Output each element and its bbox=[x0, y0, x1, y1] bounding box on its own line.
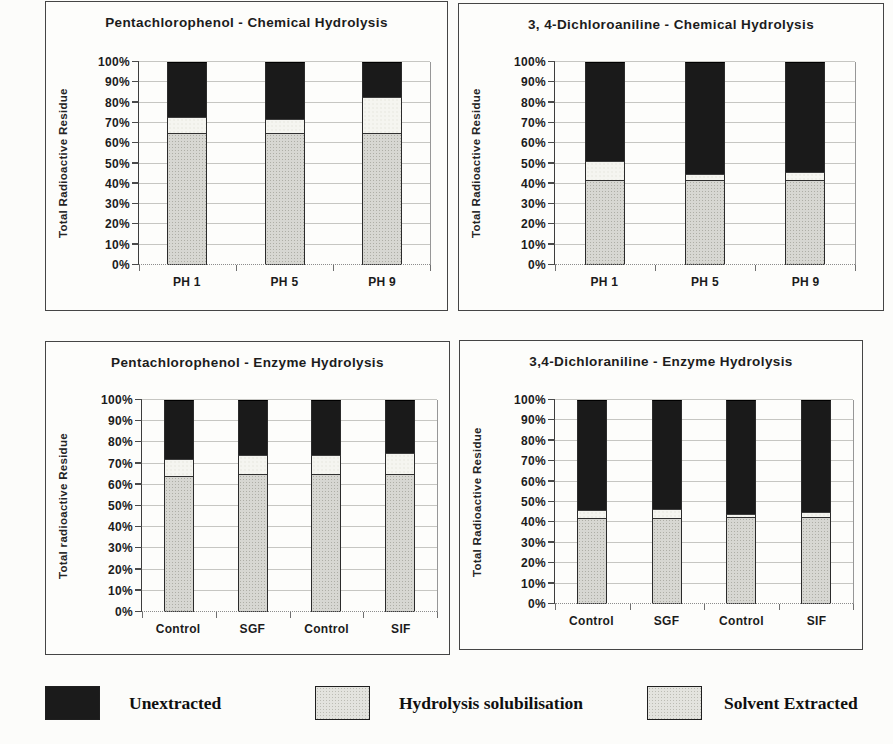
x-axis-category-label: PH 5 bbox=[691, 275, 719, 289]
y-axis-tick-label: 0% bbox=[528, 597, 546, 611]
y-axis-tick bbox=[132, 264, 139, 265]
x-axis-category-label: PH 9 bbox=[368, 275, 396, 289]
x-axis-tick bbox=[363, 612, 364, 618]
y-axis-tick bbox=[548, 61, 555, 62]
bar-segment-black bbox=[577, 400, 607, 510]
legend: Unextracted Hydrolysis solubilisation So… bbox=[0, 675, 893, 744]
x-axis-category-label: PH 5 bbox=[271, 275, 299, 289]
y-axis-tick-label: 90% bbox=[105, 75, 130, 89]
y-axis-tick bbox=[132, 182, 139, 183]
x-axis-category-label: SGF bbox=[654, 614, 680, 628]
y-axis-tick bbox=[548, 521, 555, 522]
bar-segment-white bbox=[385, 453, 415, 474]
y-axis-tick-label: 90% bbox=[521, 75, 546, 89]
y-axis-tick-label: 70% bbox=[108, 457, 133, 471]
bar-segment-black bbox=[311, 400, 341, 455]
y-axis-tick-label: 60% bbox=[108, 478, 133, 492]
y-axis-tick-labels: 0%10%20%30%40%50%60%70%80%90%100% bbox=[82, 62, 130, 265]
bar-segment-white bbox=[164, 459, 194, 476]
y-axis-tick bbox=[548, 501, 555, 502]
x-axis-tick bbox=[437, 612, 438, 618]
y-axis-tick-label: 70% bbox=[521, 116, 546, 130]
bar-segment-gray bbox=[164, 476, 194, 612]
y-axis-tick-label: 0% bbox=[112, 258, 130, 272]
y-axis-tick bbox=[135, 611, 142, 612]
bar-segment-white bbox=[726, 514, 756, 517]
y-axis-tick bbox=[132, 243, 139, 244]
y-axis-tick-label: 80% bbox=[105, 96, 130, 110]
legend-swatch-unextracted bbox=[45, 686, 100, 720]
x-axis-tick bbox=[630, 604, 631, 610]
y-axis-tick-label: 10% bbox=[521, 238, 546, 252]
chart-panel-pentachlorophenol-chemical: Pentachlorophenol - Chemical Hydrolysis … bbox=[45, 1, 448, 311]
bar-segment-black bbox=[685, 62, 725, 174]
y-axis-tick-label: 100% bbox=[101, 393, 133, 407]
x-axis-category-label: PH 1 bbox=[590, 275, 618, 289]
x-axis-tick bbox=[139, 265, 140, 271]
y-axis-tick-label: 0% bbox=[115, 605, 133, 619]
plot-area bbox=[141, 400, 438, 612]
x-axis-category-labels: ControlSGFControlSIF bbox=[554, 614, 854, 632]
bar-segment-white bbox=[265, 119, 305, 133]
y-axis-tick bbox=[135, 505, 142, 506]
bar-segment-white bbox=[311, 455, 341, 474]
x-axis-tick bbox=[430, 265, 431, 271]
stacked-bar bbox=[685, 62, 725, 265]
stacked-bar bbox=[577, 400, 607, 604]
y-axis-tick-label: 20% bbox=[105, 217, 130, 231]
y-axis-tick-label: 60% bbox=[521, 136, 546, 150]
bar-segment-white bbox=[362, 97, 402, 134]
bar-segment-gray bbox=[785, 180, 825, 265]
x-axis-category-labels: ControlSGFControlSIF bbox=[141, 622, 438, 640]
x-axis-tick bbox=[704, 604, 705, 610]
y-axis-tick-labels: 0%10%20%30%40%50%60%70%80%90%100% bbox=[85, 400, 133, 612]
stacked-bar bbox=[726, 400, 756, 604]
y-axis-tick bbox=[548, 460, 555, 461]
bar-segment-black bbox=[785, 62, 825, 172]
chart-panel-pentachlorophenol-enzyme: Pentachlorophenol - Enzyme Hydrolysis To… bbox=[45, 341, 450, 655]
x-axis-tick bbox=[216, 612, 217, 618]
y-axis-tick bbox=[135, 441, 142, 442]
stacked-bar bbox=[164, 400, 194, 612]
bar-segment-black bbox=[801, 400, 831, 512]
chart-title: 3, 4-Dichloroaniline - Chemical Hydrolys… bbox=[459, 17, 883, 32]
y-axis-tick-label: 30% bbox=[521, 536, 546, 550]
y-axis-tick bbox=[135, 420, 142, 421]
legend-item-hydrolysis-solubilisation: Hydrolysis solubilisation bbox=[315, 686, 583, 720]
y-axis-tick-label: 0% bbox=[528, 258, 546, 272]
y-axis-tick bbox=[548, 243, 555, 244]
bar-segment-gray bbox=[726, 517, 756, 604]
bar-segment-gray bbox=[685, 180, 725, 265]
bar-segment-white bbox=[577, 510, 607, 518]
y-axis-tick bbox=[135, 568, 142, 569]
y-axis-tick-label: 90% bbox=[521, 413, 546, 427]
y-axis-tick-label: 40% bbox=[521, 177, 546, 191]
y-axis-tick bbox=[548, 162, 555, 163]
plot-area bbox=[138, 62, 431, 265]
bar-segment-black bbox=[164, 400, 194, 459]
x-axis-tick bbox=[779, 604, 780, 610]
stacked-bar bbox=[785, 62, 825, 265]
y-axis-tick-label: 100% bbox=[514, 393, 546, 407]
y-axis-tick bbox=[548, 439, 555, 440]
y-axis-tick bbox=[548, 142, 555, 143]
plot-area bbox=[554, 62, 856, 265]
y-axis-tick-label: 80% bbox=[521, 96, 546, 110]
x-axis-category-labels: PH 1PH 5PH 9 bbox=[554, 275, 856, 293]
y-axis-tick bbox=[548, 182, 555, 183]
x-axis-tick bbox=[290, 612, 291, 618]
y-axis-tick bbox=[132, 101, 139, 102]
y-axis-title: Total radioactive Residue bbox=[54, 400, 72, 612]
bar-segment-black bbox=[652, 400, 682, 509]
stacked-bar bbox=[652, 400, 682, 604]
legend-label-unextracted: Unextracted bbox=[129, 693, 221, 714]
x-axis-tick bbox=[855, 265, 856, 271]
bar-segment-white bbox=[652, 509, 682, 518]
y-axis-tick-label: 60% bbox=[521, 475, 546, 489]
bar-segment-white bbox=[167, 117, 207, 133]
y-axis-tick-label: 80% bbox=[521, 434, 546, 448]
y-axis-tick-label: 70% bbox=[521, 454, 546, 468]
y-axis-title: Total Radioactive Residue bbox=[54, 62, 72, 265]
y-axis-tick bbox=[548, 419, 555, 420]
bar-segment-white bbox=[685, 174, 725, 180]
